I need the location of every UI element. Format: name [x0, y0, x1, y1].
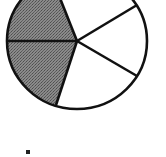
fraction-circle-diagram	[0, 0, 166, 157]
spoke-top-right	[77, 5, 137, 41]
square-marker	[26, 150, 30, 154]
spoke-bottom-right	[77, 41, 137, 76]
